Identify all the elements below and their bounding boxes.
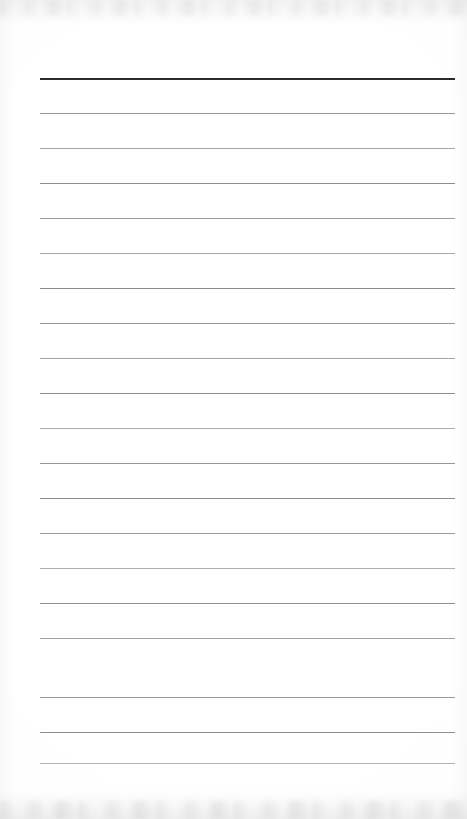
scanned-page: [0, 0, 467, 819]
ruled-line: [40, 253, 455, 254]
ruled-line: [40, 78, 455, 80]
ruled-line: [40, 183, 455, 184]
ruled-line: [40, 533, 455, 534]
ruled-line: [40, 638, 455, 639]
ruled-line: [40, 498, 455, 499]
ruled-line: [40, 568, 455, 569]
ruled-line: [40, 218, 455, 219]
ruled-line: [40, 393, 455, 394]
ruled-line: [40, 763, 455, 764]
ruled-line: [40, 732, 455, 733]
ruled-lines-group: [0, 0, 467, 819]
ruled-line: [40, 113, 455, 114]
ruled-line: [40, 288, 455, 289]
ruled-line: [40, 323, 455, 324]
ruled-line: [40, 148, 455, 149]
ruled-line: [40, 603, 455, 604]
ruled-line: [40, 358, 455, 359]
ruled-line: [40, 428, 455, 429]
ruled-line: [40, 463, 455, 464]
ruled-line: [40, 697, 455, 698]
